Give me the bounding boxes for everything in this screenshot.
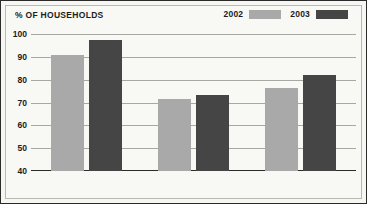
y-axis-tick-label: 100 — [13, 29, 27, 39]
y-axis-tick-label: 80 — [18, 75, 27, 85]
legend-swatch-icon — [249, 10, 281, 19]
gridline — [31, 34, 356, 35]
chart-title: % OF HOUSEHOLDS — [15, 10, 104, 20]
y-axis-tick-label: 60 — [18, 120, 27, 130]
y-axis-tick-label: 90 — [18, 52, 27, 62]
legend-label: 2002 — [224, 9, 244, 19]
legend-entry-2003[interactable]: 2003 — [290, 9, 348, 19]
legend-swatch-icon — [316, 10, 348, 19]
bar-urban-2003[interactable] — [196, 95, 229, 171]
y-axis-tick-label: 70 — [18, 98, 27, 108]
bar-england-2003[interactable] — [303, 75, 336, 171]
bar-urban-2002[interactable] — [158, 99, 191, 171]
y-axis-tick-label: 40 — [18, 166, 27, 176]
legend-label: 2003 — [290, 9, 310, 19]
legend-entry-2002[interactable]: 2002 — [224, 9, 282, 19]
bar-rural-2003[interactable] — [89, 40, 122, 171]
bar-england-2002[interactable] — [265, 88, 298, 171]
y-axis-tick-label: 50 — [18, 143, 27, 153]
chart-figure: % OF HOUSEHOLDS 20022003 100908070605040… — [0, 0, 367, 204]
bar-rural-2002[interactable] — [51, 55, 84, 171]
chart-legend: 20022003 — [224, 9, 348, 19]
plot-area: 100908070605040RURALURBANENGLAND — [31, 34, 356, 171]
